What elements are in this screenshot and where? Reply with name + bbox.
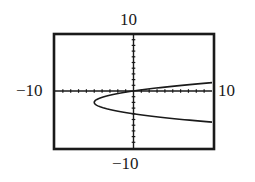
parabola-curve [94, 83, 212, 123]
graph-window [0, 0, 255, 182]
